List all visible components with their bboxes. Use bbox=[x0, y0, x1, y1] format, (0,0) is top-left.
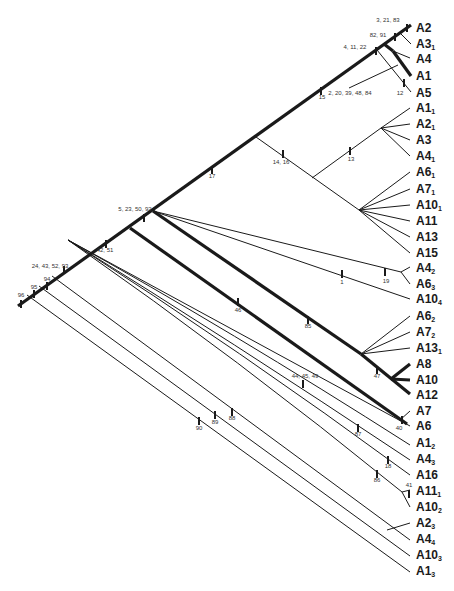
taxon-label: A11 bbox=[416, 214, 438, 228]
character-label: 42, 51 bbox=[97, 247, 114, 253]
character-label: 5, 23, 50, 92 bbox=[118, 206, 152, 212]
taxon-label: A21 bbox=[416, 117, 435, 131]
character-label: 41 bbox=[406, 482, 413, 488]
taxon-label: A5 bbox=[416, 86, 432, 100]
taxon-label: A12 bbox=[416, 436, 435, 450]
taxon-label: A61 bbox=[416, 165, 435, 179]
taxon-label: A131 bbox=[416, 341, 442, 355]
character-label: 88 bbox=[229, 415, 236, 421]
clade-a1_1-a15 bbox=[256, 108, 410, 253]
cladogram: 3, 21, 8382, 914, 11, 222, 20, 39, 48, 8… bbox=[0, 0, 454, 591]
taxon-label: A111 bbox=[416, 484, 441, 498]
character-label: 95 bbox=[31, 284, 38, 290]
clade-node-5-23-50-92 bbox=[130, 211, 410, 424]
taxon-label: A44 bbox=[416, 532, 435, 546]
character-label: 24, 43, 52, 93 bbox=[32, 263, 69, 269]
taxon-label: A104 bbox=[416, 292, 442, 306]
taxon-label: A3 bbox=[416, 133, 432, 147]
character-label: 19 bbox=[383, 278, 390, 284]
character-label: 1 bbox=[340, 279, 344, 285]
taxon-label: A13 bbox=[416, 230, 438, 244]
character-label: 85 bbox=[305, 323, 312, 329]
taxon-label: A43 bbox=[416, 452, 435, 466]
character-label: 89 bbox=[212, 419, 219, 425]
taxon-label: A62 bbox=[416, 309, 435, 323]
taxon-label: A2 bbox=[416, 21, 432, 35]
character-label: 3, 21, 83 bbox=[376, 17, 400, 23]
character-label: 44, 45, 49 bbox=[292, 373, 319, 379]
taxon-label: A11 bbox=[416, 101, 435, 115]
taxon-label: A6 bbox=[416, 419, 432, 433]
character-label: 18 bbox=[385, 463, 392, 469]
clade-node-24-43-52-93 bbox=[68, 240, 410, 507]
taxon-label: A41 bbox=[416, 149, 435, 163]
taxon-labels: A2A31A4A1A5A11A21A3A41A61A71A101A11A13A1… bbox=[416, 21, 442, 578]
character-label: 15 bbox=[319, 94, 326, 100]
taxon-label: A1 bbox=[416, 69, 432, 83]
taxon-label: A71 bbox=[416, 182, 435, 196]
taxon-label: A23 bbox=[416, 516, 435, 530]
character-label: 17 bbox=[209, 173, 216, 179]
taxon-label: A72 bbox=[416, 325, 435, 339]
character-label: 13 bbox=[348, 156, 355, 162]
character-label: 87 bbox=[355, 431, 362, 437]
character-label: 86 bbox=[374, 477, 381, 483]
taxon-label: A4 bbox=[416, 52, 432, 66]
character-label: 82, 91 bbox=[370, 32, 387, 38]
taxon-label: A7 bbox=[416, 404, 432, 418]
taxon-label: A13 bbox=[416, 564, 435, 578]
taxon-label: A31 bbox=[416, 37, 435, 51]
taxon-label: A101 bbox=[416, 198, 442, 212]
taxon-label: A16 bbox=[416, 468, 438, 482]
main-trunk bbox=[18, 25, 411, 306]
character-label: 96 bbox=[18, 292, 25, 298]
character-label: 47 bbox=[374, 373, 381, 379]
taxon-label: A63 bbox=[416, 277, 435, 291]
taxon-label: A8 bbox=[416, 357, 432, 371]
taxon-label: A103 bbox=[416, 548, 442, 562]
basal-branches bbox=[27, 276, 410, 572]
character-label: 90 bbox=[196, 425, 203, 431]
character-label: 12 bbox=[397, 90, 404, 96]
character-label: 14, 16 bbox=[273, 159, 290, 165]
character-label: 94 bbox=[44, 276, 51, 282]
taxon-label: A12 bbox=[416, 388, 438, 402]
taxon-label: A42 bbox=[416, 261, 435, 275]
character-label: 46 bbox=[235, 307, 242, 313]
character-label: 2, 20, 39, 48, 84 bbox=[328, 90, 372, 96]
character-label: 4, 11, 22 bbox=[344, 44, 368, 50]
taxon-label: A10 bbox=[416, 373, 438, 387]
character-label: 40 bbox=[396, 425, 403, 431]
taxon-label: A102 bbox=[416, 500, 442, 514]
taxon-label: A15 bbox=[416, 246, 438, 260]
